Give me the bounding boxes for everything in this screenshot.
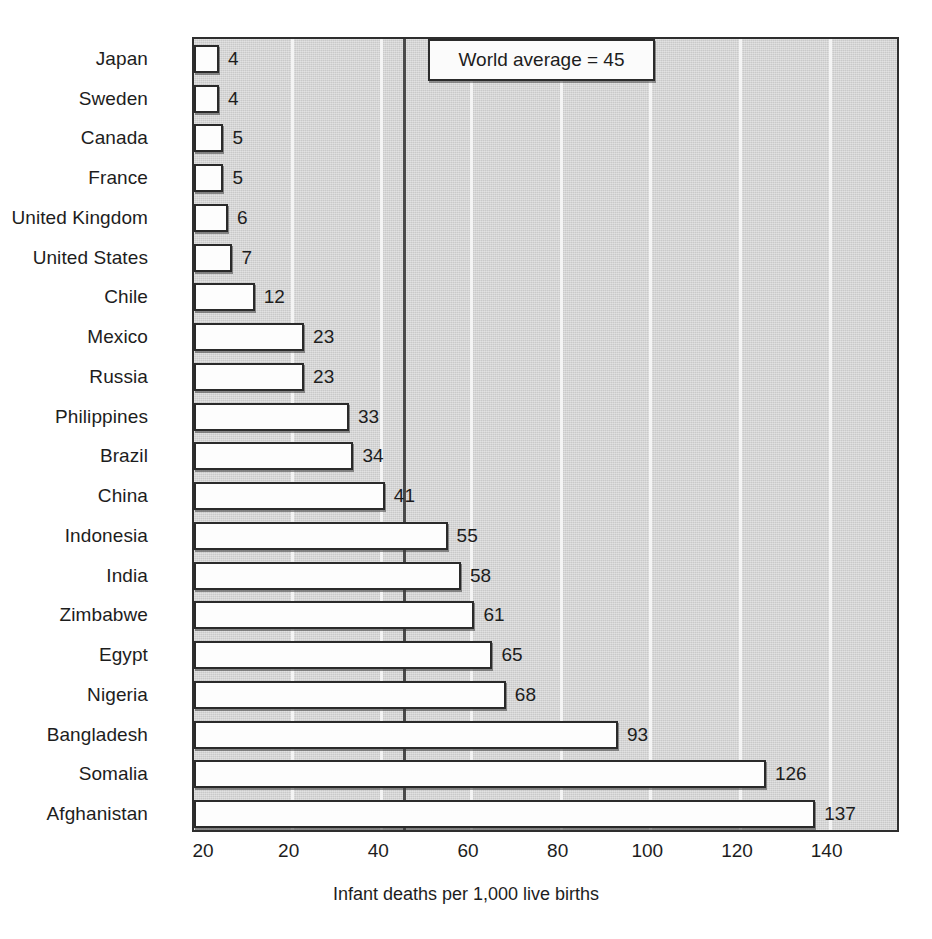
world-average-label: World average = 45 [459, 49, 625, 71]
category-label: Sweden [79, 88, 148, 110]
category-label: Mexico [87, 326, 148, 348]
bar-value-label: 55 [457, 525, 478, 547]
bar-value-label: 137 [824, 803, 856, 825]
category-label: Zimbabwe [60, 604, 148, 626]
bar-row: Indonesia55 [194, 516, 897, 556]
bar [194, 562, 461, 590]
bar [194, 760, 766, 788]
bar [194, 721, 618, 749]
x-axis-tick-label: 20 [192, 840, 213, 862]
bar [194, 641, 492, 669]
category-label: United Kingdom [11, 207, 148, 229]
bar-value-label: 7 [241, 247, 252, 269]
bar-value-label: 93 [627, 724, 648, 746]
category-label: China [98, 485, 148, 507]
plot-area: Japan4Sweden4Canada5France5United Kingdo… [192, 37, 899, 832]
x-axis-tick-label: 120 [721, 840, 753, 862]
bar-row: China41 [194, 476, 897, 516]
bar-value-label: 68 [515, 684, 536, 706]
bar-row: Chile12 [194, 278, 897, 318]
bar-row: Sweden4 [194, 79, 897, 119]
bar-value-label: 23 [313, 366, 334, 388]
category-label: Egypt [99, 644, 148, 666]
bar-value-label: 65 [501, 644, 522, 666]
x-axis-tick-label: 100 [631, 840, 663, 862]
x-axis-tick-label: 140 [811, 840, 843, 862]
bar-row: Brazil34 [194, 437, 897, 477]
bar-value-label: 23 [313, 326, 334, 348]
bar-value-label: 5 [232, 127, 243, 149]
x-axis-tick-label: 60 [457, 840, 478, 862]
bar-value-label: 6 [237, 207, 248, 229]
bar [194, 45, 219, 73]
bar [194, 85, 219, 113]
category-label: Russia [89, 366, 148, 388]
bar [194, 482, 385, 510]
bar-row: Egypt65 [194, 635, 897, 675]
bar [194, 681, 506, 709]
bar-row: Russia23 [194, 357, 897, 397]
category-label: Bangladesh [47, 724, 148, 746]
bar-row: Bangladesh93 [194, 715, 897, 755]
bar-value-label: 126 [775, 763, 807, 785]
category-label: Indonesia [65, 525, 148, 547]
bar-row: Philippines33 [194, 397, 897, 437]
bar [194, 601, 474, 629]
world-average-annotation: World average = 45 [428, 39, 655, 81]
bar-value-label: 41 [394, 485, 415, 507]
bar-row: Nigeria68 [194, 675, 897, 715]
category-label: Nigeria [87, 684, 148, 706]
bar [194, 800, 815, 828]
bar-row: Zimbabwe61 [194, 596, 897, 636]
bar [194, 403, 349, 431]
bar [194, 522, 448, 550]
category-label: India [106, 565, 148, 587]
bar-row: Canada5 [194, 119, 897, 159]
bar-value-label: 58 [470, 565, 491, 587]
category-label: France [88, 167, 148, 189]
x-axis-tick-label: 20 [278, 840, 299, 862]
x-axis-tick-label: 80 [547, 840, 568, 862]
bar-value-label: 33 [358, 406, 379, 428]
category-label: United States [33, 247, 148, 269]
bar-row: United Kingdom6 [194, 198, 897, 238]
category-label: Philippines [55, 406, 148, 428]
x-axis-title: Infant deaths per 1,000 live births [0, 884, 932, 905]
category-label: Brazil [100, 445, 148, 467]
bar-row: United States7 [194, 238, 897, 278]
bar-value-label: 4 [228, 88, 239, 110]
bar [194, 204, 228, 232]
bar-value-label: 34 [362, 445, 383, 467]
x-axis-tick-label: 40 [368, 840, 389, 862]
category-label: Chile [104, 286, 148, 308]
bar-row: Afghanistan137 [194, 794, 897, 834]
bar-value-label: 61 [483, 604, 504, 626]
category-label: Japan [96, 48, 148, 70]
bar [194, 323, 304, 351]
bar-value-label: 12 [264, 286, 285, 308]
bar-value-label: 4 [228, 48, 239, 70]
bar-value-label: 5 [232, 167, 243, 189]
bar-row: India58 [194, 556, 897, 596]
bar-row: Mexico23 [194, 317, 897, 357]
bar [194, 244, 232, 272]
category-label: Somalia [79, 763, 148, 785]
bar [194, 363, 304, 391]
bar-row: Somalia126 [194, 755, 897, 795]
bar-row: France5 [194, 158, 897, 198]
bar [194, 164, 223, 192]
category-label: Canada [81, 127, 148, 149]
bar [194, 124, 223, 152]
category-label: Afghanistan [47, 803, 148, 825]
bar [194, 442, 353, 470]
infant-mortality-bar-chart: Japan4Sweden4Canada5France5United Kingdo… [0, 0, 932, 939]
bar [194, 283, 255, 311]
